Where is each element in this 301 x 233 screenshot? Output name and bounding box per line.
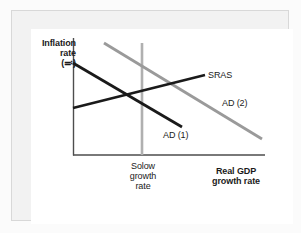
figure-page: Inflation rate (≕) SRAS AD (2) AD (1) So… [0, 0, 301, 233]
aggregate-demand-supply-chart [0, 0, 301, 233]
ad1-curve-label: AD (1) [163, 130, 188, 140]
x-axis-label: Real GDP growth rate [196, 166, 276, 186]
y-axis-label: Inflation rate (≕) [22, 38, 76, 68]
ad2-curve [104, 43, 262, 139]
sras-curve-label: SRAS [208, 70, 232, 80]
ad2-curve-label: AD (2) [222, 98, 247, 108]
solow-growth-rate-label: Solow growth rate [112, 161, 174, 191]
